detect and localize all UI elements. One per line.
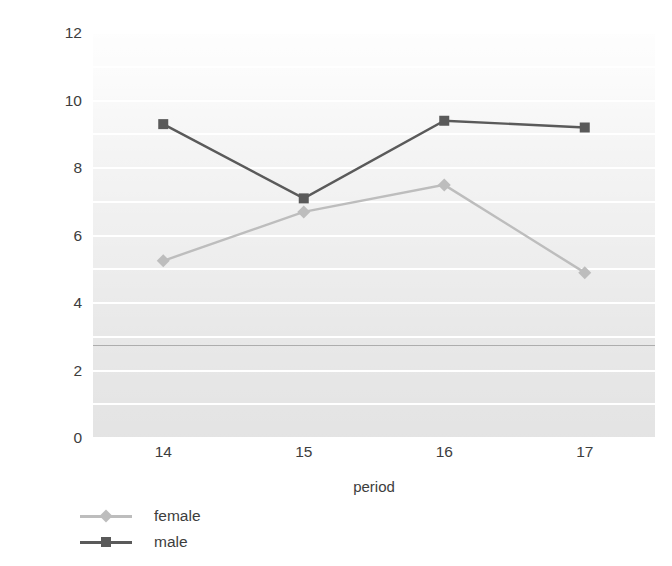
legend-item-male[interactable]: male [78, 529, 338, 555]
series-layer [93, 33, 655, 438]
data-point-male [439, 116, 449, 126]
legend-swatch-male [78, 534, 134, 550]
y-axis-tick-label: 0 [46, 430, 82, 446]
y-axis-tick-label: 4 [46, 295, 82, 311]
chart-legend: femalemale [78, 503, 338, 555]
line-chart: % prevalence 024681012 14151617 period f… [0, 0, 672, 566]
legend-label-male: male [154, 533, 188, 551]
y-axis-tick-label: 10 [46, 93, 82, 109]
data-point-female [297, 205, 310, 218]
y-axis-tick-label: 2 [46, 363, 82, 379]
series-line-male [163, 121, 585, 199]
x-axis-tick-label: 15 [274, 444, 334, 460]
y-axis-tick-label: 12 [46, 25, 82, 41]
x-axis-title: period [93, 478, 655, 495]
data-point-male [158, 119, 168, 129]
legend-swatch-female [78, 508, 134, 524]
data-point-male [580, 123, 590, 133]
y-axis-tick-label: 8 [46, 160, 82, 176]
x-axis-tick-labels: 14151617 [93, 444, 655, 468]
x-axis-tick-label: 14 [133, 444, 193, 460]
y-axis-tick-labels: 024681012 [40, 0, 82, 566]
data-point-female [157, 254, 170, 267]
x-axis-tick-label: 17 [555, 444, 615, 460]
legend-marker-female [100, 510, 113, 523]
y-axis-tick-label: 6 [46, 228, 82, 244]
legend-marker-male [101, 537, 111, 547]
legend-label-female: female [154, 507, 201, 525]
series-line-female [163, 185, 585, 273]
legend-marker-square-icon [97, 533, 115, 551]
legend-item-female[interactable]: female [78, 503, 338, 529]
legend-marker-diamond-icon [97, 507, 115, 525]
x-axis-tick-label: 16 [414, 444, 474, 460]
plot-area [93, 33, 655, 438]
data-point-female [578, 266, 591, 279]
data-point-female [438, 178, 451, 191]
data-point-male [299, 193, 309, 203]
